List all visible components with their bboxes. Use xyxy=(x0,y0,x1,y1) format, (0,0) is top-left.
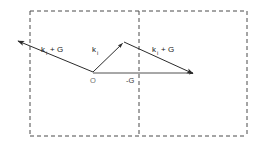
label-ki-plus-g-left-suffix: + G xyxy=(50,45,63,54)
label-ki-plus-g-left-subscript: i xyxy=(46,50,47,56)
label-ki-plus-g-right-suffix: + G xyxy=(161,45,174,54)
vector-ki xyxy=(93,44,123,73)
label-ki-plus-g-right: k i + G xyxy=(152,45,174,56)
vector-diagram-figure: k i + G k i k i + G O -G xyxy=(0,0,260,145)
diagram-canvas: k i + G k i k i + G O -G xyxy=(0,0,260,145)
label-origin: O xyxy=(90,76,96,85)
label-group: k i + G k i k i + G O -G xyxy=(41,45,174,85)
label-ki-plus-g-right-subscript: i xyxy=(157,50,158,56)
label-minus-g: -G xyxy=(126,76,134,85)
label-ki-plus-g-left: k i + G xyxy=(41,45,63,56)
vector-ki-plus-g-right xyxy=(124,42,193,74)
label-ki: k i xyxy=(92,45,98,56)
label-ki-subscript: i xyxy=(97,50,98,56)
dashed-reference-box xyxy=(30,11,247,136)
